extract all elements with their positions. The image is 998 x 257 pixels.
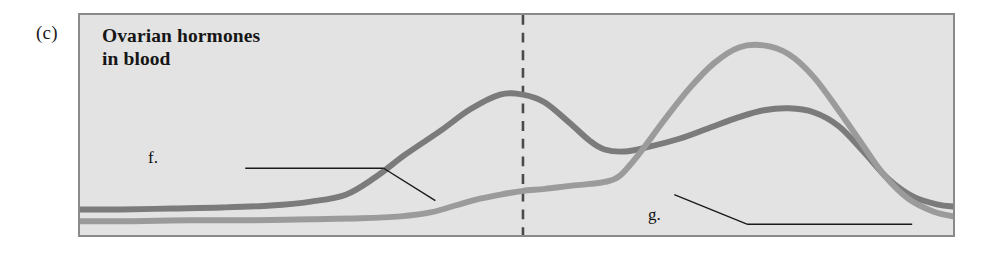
plot-curves-svg bbox=[80, 15, 953, 235]
leader-line-f-d bbox=[384, 168, 436, 200]
figure-panel-c: (c) Ovarian hormones in blood f. g. bbox=[0, 0, 998, 257]
annotation-label-f: f. bbox=[148, 148, 158, 168]
panel-letter: (c) bbox=[36, 22, 58, 44]
leader-line-g-d bbox=[674, 195, 747, 224]
plot-area: Ovarian hormones in blood f. g. bbox=[78, 13, 955, 237]
curve-g-light bbox=[80, 45, 953, 222]
series-layer bbox=[80, 45, 953, 222]
annotation-label-g: g. bbox=[648, 205, 661, 225]
